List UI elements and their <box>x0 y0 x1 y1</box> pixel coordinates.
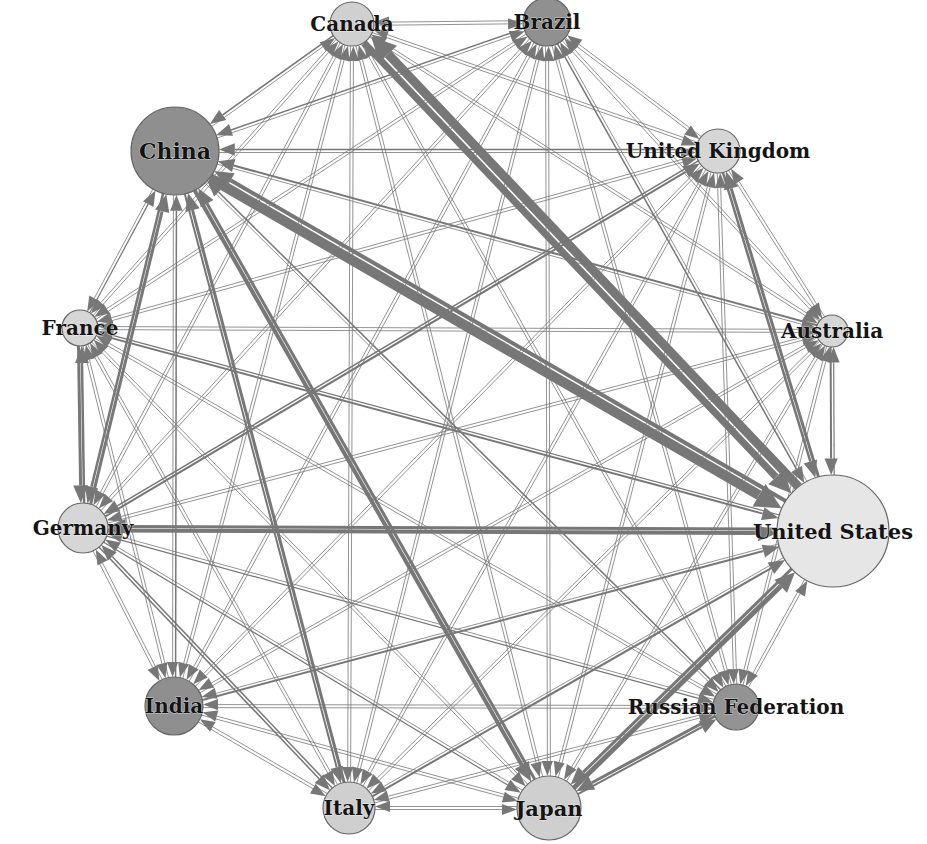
node-india[interactable]: India <box>145 677 203 735</box>
edge-china-to-russian-federation <box>205 183 708 681</box>
arrowhead-icon <box>348 46 359 61</box>
edge-india-to-italy <box>198 722 313 789</box>
arrowhead-icon <box>542 761 553 776</box>
edge-germany-to-united-states <box>108 531 758 534</box>
arrowhead-icon <box>170 195 182 211</box>
node-italy[interactable]: Italy <box>323 782 376 834</box>
node-label: China <box>139 138 211 164</box>
edge-united-states-to-russian-federation <box>753 579 805 673</box>
arrowhead-icon <box>768 560 786 574</box>
node-russian-federation[interactable]: Russian Federation <box>628 684 845 730</box>
edge-france-to-china <box>90 204 148 313</box>
node-label: France <box>42 316 119 340</box>
edge-japan-to-brazil <box>549 61 551 776</box>
arrowhead-icon <box>203 699 218 710</box>
node-label: United Kingdom <box>626 139 810 163</box>
edge-russian-federation-to-germany <box>122 537 714 699</box>
node-label: India <box>145 694 203 718</box>
node-label: Australia <box>780 319 883 343</box>
edge-canada-to-china <box>223 36 334 115</box>
edge-china-to-japan <box>195 190 522 765</box>
edge-australia-to-united-states <box>831 347 832 459</box>
network-graph: CanadaBrazilUnited KingdomAustraliaUnite… <box>0 0 927 844</box>
edge-germany-to-china <box>91 211 162 504</box>
edge-germany-to-france <box>82 363 84 503</box>
edge-united-kingdom-to-australia <box>729 170 815 305</box>
edge-canada-to-brazil <box>374 24 508 25</box>
edge-australia-to-united-kingdom <box>739 181 825 316</box>
edge-italy-to-india <box>213 727 328 794</box>
arrowhead-icon <box>762 545 780 558</box>
arrowhead-icon <box>795 581 807 597</box>
edge-india-to-china <box>176 211 177 677</box>
edge-italy-to-france <box>97 356 337 785</box>
node-label: Canada <box>310 12 393 36</box>
edge-france-to-germany <box>79 346 81 485</box>
node-label: United States <box>753 519 913 544</box>
arrowhead-icon <box>73 485 88 503</box>
node-label: Brazil <box>514 10 581 34</box>
node-china[interactable]: China <box>131 107 219 195</box>
edge-china-to-canada <box>212 47 323 127</box>
edge-united-states-to-australia <box>834 362 835 475</box>
arrowhead-icon <box>200 719 216 731</box>
edge-italy-to-germany <box>112 557 332 789</box>
edge-canada-to-japan <box>356 46 536 763</box>
arrowhead-icon <box>219 143 235 155</box>
node-australia[interactable]: Australia <box>780 315 883 347</box>
arrowhead-icon <box>210 110 226 124</box>
edge-russian-federation-to-france <box>109 343 717 694</box>
edge-italy-to-canada <box>351 61 354 782</box>
edge-india-to-germany <box>103 563 163 680</box>
arrowhead-icon <box>218 159 236 172</box>
edge-united-states-to-japan <box>583 569 791 772</box>
arrowhead-icon <box>148 665 160 681</box>
edge-australia-to-brazil <box>575 50 823 319</box>
edge-united-states-to-germany <box>126 526 777 529</box>
edge-france-to-india <box>83 346 162 664</box>
node-label: Russian Federation <box>628 695 845 719</box>
edge-italy-to-brazil <box>357 60 539 783</box>
edge-japan-to-canada <box>363 60 543 777</box>
node-japan[interactable]: Japan <box>513 776 582 840</box>
edge-germany-to-canada <box>96 57 336 506</box>
edge-brazil-to-italy <box>358 45 540 768</box>
edge-france-to-australia <box>98 330 801 333</box>
edge-brazil-to-canada <box>389 21 523 22</box>
node-label: Italy <box>324 796 376 820</box>
node-label: Japan <box>513 796 582 821</box>
edge-france-to-italy <box>88 344 328 773</box>
edge-australia-to-germany <box>121 334 816 517</box>
arrowhead-icon <box>825 459 838 475</box>
edge-india-to-russian-federation <box>203 708 698 709</box>
node-label: Germany <box>33 516 135 540</box>
edge-united-states-to-brazil <box>567 55 807 481</box>
edge-japan-to-united-states <box>574 586 781 788</box>
edge-india-to-united-kingdom <box>195 178 693 686</box>
arrowhead-icon <box>216 124 233 136</box>
edge-china-to-united-states <box>210 178 759 495</box>
arrowhead-icon <box>167 662 178 677</box>
